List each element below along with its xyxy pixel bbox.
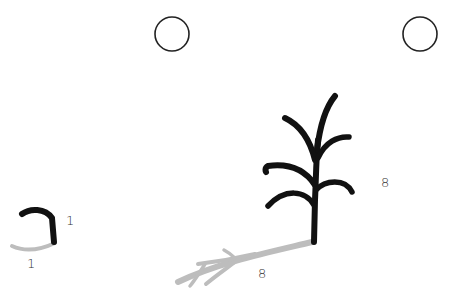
seedling [22,210,54,242]
sun-circle-left [155,17,189,51]
mature-plant-shadow-label: 8 [258,266,266,281]
seedling-shadow-label: 1 [27,256,35,271]
sun-circle-right [403,17,437,51]
diagram-canvas [0,0,454,303]
seedling-shadow [12,243,55,250]
mature-plant [266,96,353,242]
mature-plant-shadow [178,242,312,286]
seedling-height-label: 1 [66,213,74,228]
mature-plant-height-label: 8 [381,175,389,190]
